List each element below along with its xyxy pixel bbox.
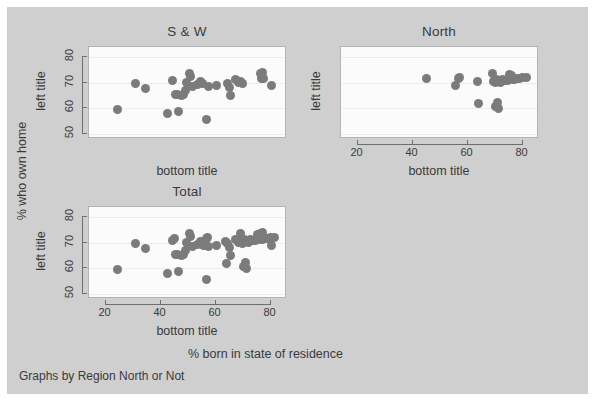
data-point	[267, 241, 276, 250]
data-point	[131, 79, 140, 88]
x-tick-label: 60	[200, 306, 230, 318]
y-tick-70	[82, 242, 87, 243]
x-tick-80	[522, 140, 523, 145]
data-point	[270, 233, 279, 242]
data-point	[174, 267, 183, 276]
x-tick-20	[357, 140, 358, 145]
data-point	[186, 232, 195, 241]
data-point	[202, 275, 211, 284]
x-tick-label: 20	[90, 306, 120, 318]
data-point	[258, 68, 267, 77]
y-tick-label: 50	[63, 281, 75, 303]
data-point	[141, 84, 150, 93]
plot-panel-north	[340, 46, 538, 138]
data-point	[474, 99, 483, 108]
data-point	[202, 115, 211, 124]
data-point	[168, 76, 177, 85]
panel-bottom-title: bottom title	[340, 164, 538, 178]
graph-canvas: % who own home % born in state of reside…	[7, 7, 588, 394]
gridline-y-50	[341, 134, 537, 135]
data-point	[494, 104, 503, 113]
gridline-y-80	[341, 57, 537, 58]
panel-title: Total	[88, 184, 286, 199]
y-tick-label: 60	[63, 255, 75, 277]
x-axis-line	[357, 144, 522, 145]
y-tick-label: 80	[63, 44, 75, 66]
x-tick-label: 20	[342, 146, 372, 158]
data-point	[221, 237, 230, 246]
gridline-y-80	[89, 217, 285, 218]
data-point	[212, 81, 221, 90]
x-tick-label: 80	[255, 306, 285, 318]
data-point	[113, 105, 122, 114]
data-point	[186, 72, 195, 81]
data-point	[163, 109, 172, 118]
data-point	[422, 74, 431, 83]
data-point	[174, 107, 183, 116]
y-tick-60	[82, 107, 87, 108]
panel-left-title: left title	[34, 45, 48, 137]
y-tick-label: 70	[63, 230, 75, 252]
x-tick-40	[412, 140, 413, 145]
data-point	[473, 77, 482, 86]
panel-left-title: left title	[34, 205, 48, 297]
data-point	[455, 73, 464, 82]
y-tick-label: 70	[63, 70, 75, 92]
x-tick-label: 80	[507, 146, 537, 158]
graph-note: Graphs by Region North or Not	[19, 369, 184, 383]
y-tick-70	[82, 82, 87, 83]
x-tick-60	[215, 300, 216, 305]
data-point	[222, 259, 231, 268]
plot-area	[341, 47, 537, 137]
data-point	[267, 81, 276, 90]
data-point	[212, 241, 221, 250]
x-axis-line	[105, 304, 270, 305]
panel-bottom-title: bottom title	[88, 324, 286, 338]
y-tick-label: 50	[63, 121, 75, 143]
panel-bottom-title: bottom title	[88, 164, 286, 178]
data-point	[203, 233, 212, 242]
overall-y-axis-label: % who own home	[15, 91, 29, 251]
x-tick-label: 40	[145, 306, 175, 318]
data-point	[163, 269, 172, 278]
panel-title: North	[340, 24, 538, 39]
y-tick-label: 60	[63, 95, 75, 117]
gridline-y-50	[89, 134, 285, 135]
overall-x-axis-label: % born in state of residence	[188, 347, 343, 361]
y-tick-60	[82, 267, 87, 268]
y-tick-80	[82, 56, 87, 57]
y-tick-50	[82, 133, 87, 134]
x-tick-40	[160, 300, 161, 305]
y-tick-80	[82, 216, 87, 217]
x-tick-60	[467, 140, 468, 145]
gridline-y-60	[341, 108, 537, 109]
gridline-y-50	[89, 294, 285, 295]
y-axis-line	[82, 216, 83, 293]
data-point	[131, 239, 140, 248]
plot-area	[89, 207, 285, 297]
y-tick-label: 80	[63, 204, 75, 226]
data-point	[242, 264, 251, 273]
plot-panel-s-w	[88, 46, 286, 138]
plot-area	[89, 47, 285, 137]
x-tick-80	[270, 300, 271, 305]
data-point	[170, 234, 179, 243]
x-tick-label: 40	[397, 146, 427, 158]
y-axis-line	[82, 56, 83, 133]
data-point	[141, 244, 150, 253]
y-tick-50	[82, 293, 87, 294]
x-tick-20	[105, 300, 106, 305]
data-point	[113, 265, 122, 274]
data-point	[522, 73, 531, 82]
data-point	[226, 91, 235, 100]
plot-panel-total	[88, 206, 286, 298]
gridline-y-80	[89, 57, 285, 58]
data-point	[238, 79, 247, 88]
panel-title: S & W	[88, 24, 286, 39]
figure-root: % who own home % born in state of reside…	[0, 0, 595, 401]
panel-left-title: left title	[309, 45, 323, 137]
x-tick-label: 60	[452, 146, 482, 158]
